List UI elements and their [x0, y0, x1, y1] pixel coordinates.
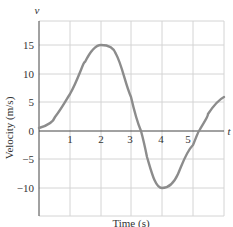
y-tick: −5	[22, 153, 34, 165]
y-tick-labels: 15 10 5 0 −5 −10	[17, 39, 35, 194]
y-tick: 5	[29, 96, 35, 108]
x-tick: 4	[158, 133, 164, 145]
x-tick: 1	[67, 133, 73, 145]
y-axis-title: Velocity (m/s)	[3, 96, 16, 159]
x-tick: 3	[127, 133, 133, 145]
x-tick: 5	[185, 133, 191, 145]
x-tick: 2	[98, 133, 104, 145]
y-tick: 0	[29, 125, 35, 137]
x-axis-title: Time (s)	[112, 217, 150, 227]
y-tick: −10	[17, 182, 35, 194]
velocity-time-chart: 15 10 5 0 −5 −10 1 2 3 4 5 v t Time (s) …	[0, 0, 233, 227]
y-tick: 10	[23, 68, 35, 80]
y-axis-variable: v	[35, 4, 40, 16]
grid	[39, 21, 224, 216]
y-tick: 15	[23, 39, 35, 51]
x-axis-variable: t	[227, 125, 231, 137]
x-tick-labels: 1 2 3 4 5	[67, 133, 191, 145]
